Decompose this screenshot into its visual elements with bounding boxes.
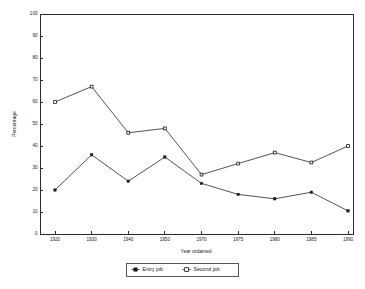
data-point [90, 85, 93, 88]
y-tick-label: 90 [32, 33, 38, 38]
data-point [347, 145, 350, 148]
x-tick-label: 1930 [87, 237, 98, 242]
data-point [127, 180, 129, 182]
y-tick-label: 80 [32, 55, 38, 60]
y-tick-label: 50 [32, 121, 38, 126]
data-point [90, 154, 92, 156]
data-point [347, 210, 349, 212]
y-tick-label: 10 [32, 209, 38, 214]
data-point [164, 156, 166, 158]
x-tick-label: 1975 [233, 237, 244, 242]
x-tick-label: 1920 [50, 237, 61, 242]
y-axis-title: Percentage [11, 111, 17, 137]
data-point [163, 127, 166, 130]
y-tick-label: 0 [35, 231, 38, 236]
legend-marker [134, 268, 137, 271]
y-axis-ticks: 0102030405060708090100 [30, 11, 43, 236]
x-tick-label: 1985 [306, 237, 317, 242]
y-tick-label: 40 [32, 143, 38, 148]
data-point [237, 162, 240, 165]
plot-frame [40, 14, 353, 234]
y-tick-label: 30 [32, 165, 38, 170]
data-point [54, 189, 56, 191]
x-tick-label: 1970 [196, 237, 207, 242]
legend-marker [185, 268, 189, 272]
data-point [310, 161, 313, 164]
y-tick-label: 20 [32, 187, 38, 192]
x-tick-label: 1980 [270, 237, 281, 242]
legend-label: Second job [194, 266, 220, 272]
data-point [54, 101, 57, 104]
data-point [127, 131, 130, 134]
x-tick-label: 1950 [160, 237, 171, 242]
x-tick-label: 1940 [123, 237, 134, 242]
data-point [237, 193, 239, 195]
series-line-second-job [55, 87, 348, 175]
line-chart: 0102030405060708090100 19201930194019501… [0, 0, 365, 289]
y-tick-label: 100 [30, 11, 38, 16]
data-point [310, 191, 312, 193]
x-tick-label: 1990 [343, 237, 354, 242]
data-point [273, 151, 276, 154]
legend-label: Entry job [143, 266, 164, 272]
x-axis-ticks: 192019301940195019701975198019851990 [50, 231, 354, 243]
data-point [200, 173, 203, 176]
chart-container: 0102030405060708090100 19201930194019501… [0, 0, 365, 289]
data-point [274, 198, 276, 200]
y-tick-label: 60 [32, 99, 38, 104]
data-point [200, 182, 202, 184]
chart-legend: Entry jobSecond job [127, 263, 239, 276]
x-axis-title: Year ordained [181, 248, 212, 254]
series-layer [54, 85, 350, 212]
y-tick-label: 70 [32, 77, 38, 82]
